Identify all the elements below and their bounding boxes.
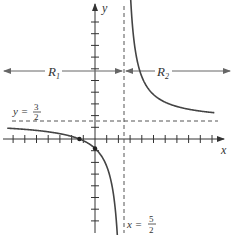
x-axis: x <box>3 135 227 157</box>
horizontal-asymptote-label: y = 3 2 <box>12 102 41 122</box>
y-intercept-point <box>93 146 97 150</box>
vertical-asymptote-label: x = 5 2 <box>126 214 156 235</box>
rational-function-graph: x y R1 R2 y = 3 2 x = 5 2 <box>0 0 233 235</box>
svg-text:2: 2 <box>149 225 154 235</box>
region-r2-label: R2 <box>156 64 169 81</box>
svg-text:3: 3 <box>34 102 39 112</box>
region-r1-label: R1 <box>47 64 60 81</box>
curve-right-branch <box>128 0 214 113</box>
svg-text:x =: x = <box>126 218 142 230</box>
y-axis-label: y <box>101 1 108 15</box>
x-axis-label: x <box>220 143 227 157</box>
svg-text:5: 5 <box>149 214 154 224</box>
x-intercept-point <box>77 137 81 141</box>
region-r1-arrow: R1 <box>4 64 122 81</box>
svg-text:2: 2 <box>34 112 39 122</box>
svg-text:y =: y = <box>12 105 28 117</box>
y-axis: y <box>91 1 108 233</box>
region-r2-arrow: R2 <box>126 64 230 81</box>
curve-left-branch <box>7 128 119 235</box>
